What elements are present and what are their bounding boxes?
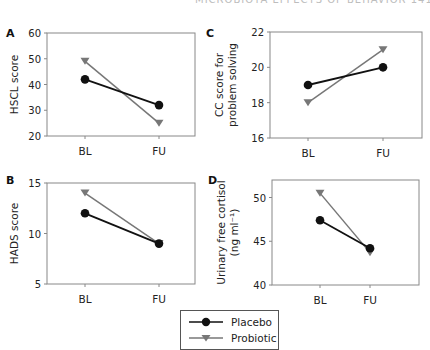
placebo-point [366,244,375,253]
series-line-placebo [320,220,370,248]
placebo-point [81,75,90,84]
placebo-point [304,81,313,90]
panel-letter: B [6,174,14,187]
x-tick-label: BL [78,293,91,305]
x-tick-label: BL [78,145,91,157]
plot-frame [270,32,422,138]
panel-letter: C [206,27,214,40]
y-tick-label: 18 [251,98,264,109]
probiotic-point [316,190,325,197]
panel-a: A2030405060BLFUHSCL score [6,27,195,157]
y-tick-label: 40 [253,280,266,291]
y-axis-label: HADS score [8,203,20,264]
x-tick-label: FU [363,294,377,306]
legend-item-placebo: Placebo [189,315,272,329]
y-tick-label: 20 [28,131,41,142]
placebo-point [155,239,164,248]
placebo-marker-icon [189,317,223,327]
series-line-placebo [308,67,383,85]
probiotic-marker-icon [189,333,223,343]
placebo-point [316,216,325,225]
placebo-point [81,209,90,218]
y-tick-label: 22 [251,27,264,38]
plot-frame [47,33,195,136]
y-tick-label: 5 [35,279,41,290]
y-tick-label: 40 [28,80,41,91]
panel-letter: A [6,27,15,40]
panel-c: C16182022BLFUCC score forproblem solving [206,27,422,159]
y-tick-label: 30 [28,105,41,116]
y-axis-label: Urinary free cortisol(ng ml⁻¹) [215,180,240,284]
legend-label-probiotic: Probiotic [231,332,276,344]
panel-d: D404550BLFUUrinary free cortisol(ng ml⁻¹… [208,174,419,306]
x-tick-label: BL [301,147,314,159]
x-tick-label: FU [152,145,166,157]
y-tick-label: 50 [253,193,266,204]
legend: Placebo Probiotic [180,310,279,350]
y-tick-label: 50 [28,54,41,65]
panel-b: B51015BLFUHADS score [6,174,195,305]
x-tick-label: BL [313,294,326,306]
placebo-point [155,101,164,110]
legend-label-placebo: Placebo [231,316,272,328]
y-axis-label: CC score forproblem solving [213,43,238,127]
probiotic-point [155,120,164,127]
y-tick-label: 60 [28,28,41,39]
probiotic-point [304,99,313,106]
y-tick-label: 45 [253,236,266,247]
y-tick-label: 20 [251,62,264,73]
y-tick-label: 16 [251,133,264,144]
placebo-point [379,63,388,72]
y-tick-label: 10 [28,229,41,240]
series-line-placebo [85,79,159,105]
x-tick-label: FU [152,293,166,305]
x-tick-label: FU [376,147,390,159]
legend-item-probiotic: Probiotic [189,331,276,345]
plot-frame [272,180,419,285]
y-axis-label: HSCL score [8,55,20,114]
plot-frame [47,183,195,284]
y-tick-label: 15 [28,178,41,189]
